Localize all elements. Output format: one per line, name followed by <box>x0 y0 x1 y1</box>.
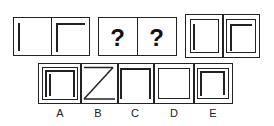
vertical-line <box>193 24 195 50</box>
horizontal-line <box>56 23 85 25</box>
result-divider <box>222 15 224 57</box>
result-panel-1-inner <box>190 19 219 53</box>
option-e-square <box>197 68 229 99</box>
option-label-c: C <box>125 107 145 119</box>
question-mark: ? <box>138 26 175 50</box>
option-divider <box>153 64 155 103</box>
horizontal-line-inner <box>200 71 224 73</box>
option-label-b: B <box>88 107 108 119</box>
vertical-line-inner <box>200 71 202 96</box>
given-panel-1 <box>13 17 52 56</box>
option-divider <box>193 64 195 103</box>
unknown-panel-2: ? <box>137 17 177 56</box>
option-label-d: D <box>164 107 184 119</box>
horizontal-line-top <box>45 70 74 72</box>
option-label-e: E <box>203 107 223 119</box>
vertical-line-right <box>73 70 75 97</box>
option-b-figure <box>82 64 116 103</box>
option-label-a: A <box>50 107 70 119</box>
given-panel-2 <box>51 17 90 56</box>
horizontal-line <box>230 24 252 26</box>
question-mark: ? <box>99 26 136 50</box>
vertical-line-inner <box>49 74 51 96</box>
vertical-line-right <box>149 68 151 99</box>
horizontal-line-top <box>120 68 150 70</box>
option-d-square <box>158 68 190 99</box>
vertical-line <box>56 23 58 52</box>
vertical-line <box>18 23 20 51</box>
option-divider <box>117 64 119 103</box>
unknown-panel-1: ? <box>98 17 138 56</box>
vertical-line-left <box>45 70 47 97</box>
result-panel-2-inner <box>226 19 256 53</box>
option-a-inner <box>42 67 78 100</box>
vertical-line <box>230 24 232 51</box>
vertical-line-inner-right <box>223 71 225 95</box>
vertical-line-left <box>120 68 122 99</box>
